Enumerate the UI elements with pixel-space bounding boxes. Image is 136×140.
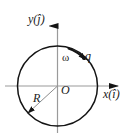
radius-label: R [33,92,40,104]
x-axis-label: x(î) [103,88,120,100]
angular-velocity-label: ω [62,52,69,63]
origin-label: O [61,84,70,96]
y-axis-label: y(ĵ) [28,13,45,25]
charge-label: q [85,50,91,62]
circular-motion-figure: y(ĵ) x(î) O R ω q [0,0,136,140]
figure-canvas [0,0,136,140]
